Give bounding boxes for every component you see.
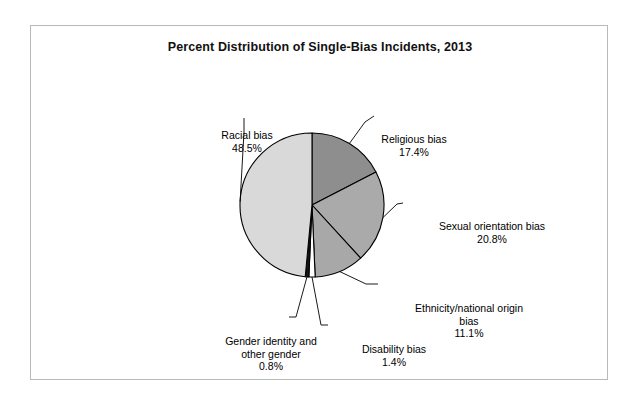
label-racial-bias: Racial bias 48.5% [197, 129, 297, 154]
label-disability-bias-name: Disability bias [346, 343, 442, 356]
label-religious-bias-name: Religious bias [359, 133, 469, 146]
label-sexual-orientation-bias: Sexual orientation bias 20.8% [428, 220, 556, 245]
chart-figure-frame: Percent Distribution of Single-Bias Inci… [30, 25, 608, 380]
leader-line-gender-identity-bias [289, 277, 307, 317]
leader-line-sexual-orientation-bias [383, 203, 403, 218]
label-religious-bias: Religious bias 17.4% [359, 133, 469, 158]
label-disability-bias-value: 1.4% [346, 356, 442, 369]
leader-line-ethnicity-bias [340, 272, 378, 285]
label-racial-bias-value: 48.5% [197, 142, 297, 155]
label-ethnicity-bias-value: 11.1% [405, 327, 533, 340]
leader-line-disability-bias [312, 277, 328, 325]
label-religious-bias-value: 17.4% [359, 146, 469, 159]
label-gender-identity-bias: Gender identity and other gender 0.8% [213, 335, 329, 373]
label-ethnicity-bias-name-line2: bias [405, 315, 533, 328]
label-ethnicity-bias-name-line1: Ethnicity/national origin [405, 302, 533, 315]
label-gender-identity-name-line2: other gender [213, 348, 329, 361]
label-gender-identity-name-line1: Gender identity and [213, 335, 329, 348]
label-racial-bias-name: Racial bias [197, 129, 297, 142]
label-ethnicity-national-origin-bias: Ethnicity/national origin bias 11.1% [405, 302, 533, 340]
label-gender-identity-value: 0.8% [213, 360, 329, 373]
label-sexual-orientation-bias-value: 20.8% [428, 233, 556, 246]
pie-slice-racial-bias [240, 133, 312, 277]
label-disability-bias: Disability bias 1.4% [346, 343, 442, 368]
label-sexual-orientation-bias-name: Sexual orientation bias [428, 220, 556, 233]
